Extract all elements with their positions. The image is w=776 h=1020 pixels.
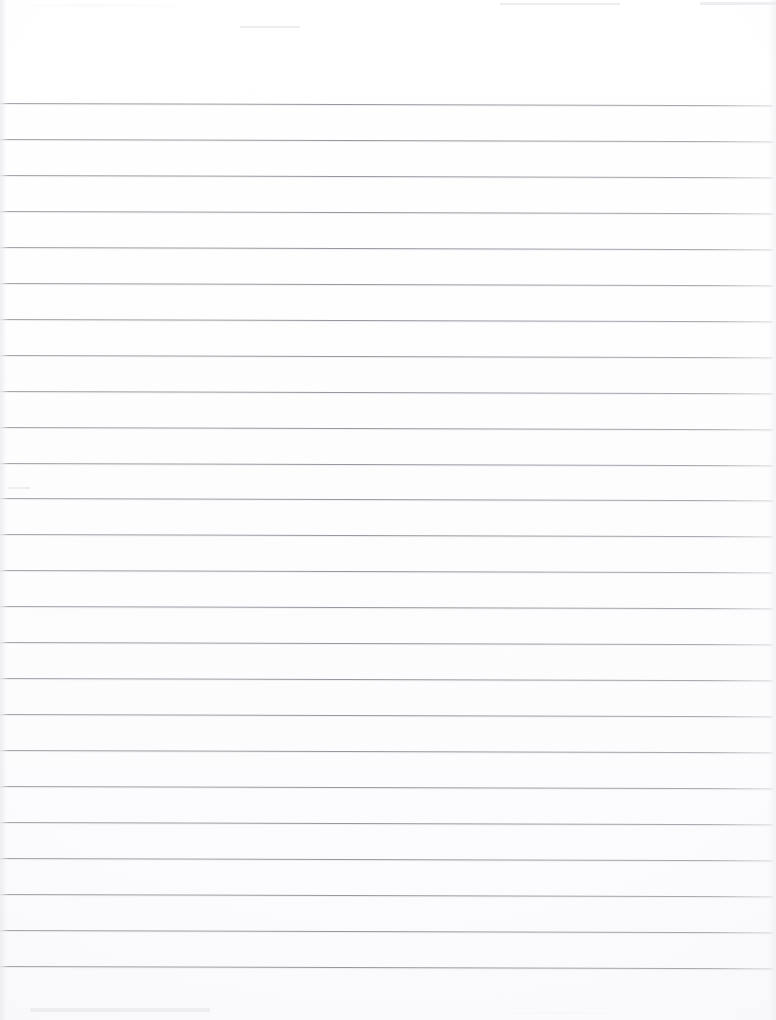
rule-line: [0, 247, 773, 250]
rule-lines-layer: [0, 0, 776, 1020]
rule-line: [0, 570, 773, 573]
rule-line: [0, 139, 773, 142]
rule-line: [0, 642, 773, 645]
rule-line: [0, 858, 773, 861]
rule-line: [0, 894, 773, 897]
rule-line: [0, 534, 773, 537]
rule-line: [0, 714, 773, 717]
rule-line: [0, 678, 773, 681]
scanned-paper-page: [0, 0, 776, 1020]
rule-line: [0, 930, 773, 933]
rule-line: [0, 822, 773, 825]
rule-line: [0, 498, 773, 501]
rule-line: [0, 427, 773, 430]
rule-line: [0, 750, 773, 753]
rule-line: [0, 211, 773, 214]
rule-line: [0, 175, 773, 178]
rule-line: [0, 355, 773, 358]
rule-line: [0, 391, 773, 394]
rule-line: [0, 786, 773, 789]
rule-line: [0, 966, 773, 969]
rule-line: [0, 283, 773, 286]
rule-line: [0, 463, 773, 466]
rule-line: [0, 319, 773, 322]
rule-line: [0, 606, 773, 609]
rule-line: [0, 103, 773, 106]
